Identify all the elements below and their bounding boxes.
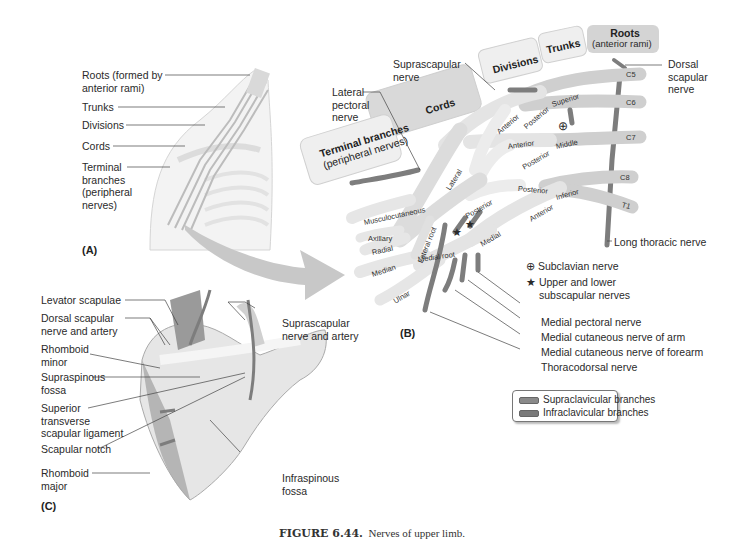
callout-lateral-pectoral-nerve: Lateralpectoralnerve [332, 86, 369, 124]
label-dorsal-scapular: Dorsal scapularnerve and artery [41, 312, 117, 337]
label-infraspinous-fossa: Infraspinousfossa [282, 472, 339, 497]
key-subscapular: ★ Upper and lowersubscapular nerves [526, 276, 630, 301]
label-cords: Cords [82, 140, 110, 153]
label-roots: Roots (formed byanterior rami) [82, 69, 163, 94]
callout-medial-cutaneous-arm: Medial cutaneous nerve of arm [541, 331, 685, 344]
branch-legend: Supraclavicular branches Infraclavicular… [512, 390, 618, 422]
supraclavicular-swatch [519, 397, 539, 404]
subscapular-star-icon-2: ★ [465, 218, 475, 231]
legend-supraclavicular: Supraclavicular branches [519, 394, 655, 405]
figure-caption: FIGURE 6.44. Nerves of upper limb. [0, 527, 744, 540]
root-c7: C7 [626, 133, 636, 142]
header-roots-sub: (anterior rami) [592, 38, 652, 51]
panel-a-letter: (A) [82, 244, 97, 256]
callout-thoracodorsal: Thoracodorsal nerve [541, 361, 637, 374]
panel-a-torso [150, 68, 272, 250]
label-rhomboid-minor: Rhomboidminor [41, 343, 89, 368]
terminal-axillary: Axillary [368, 234, 392, 243]
panel-b-letter: (B) [400, 327, 415, 339]
callout-dorsal-scapular-nerve: Dorsalscapularnerve [668, 58, 708, 96]
panel-c-letter: (C) [41, 500, 56, 512]
label-divisions: Divisions [82, 119, 124, 132]
callout-long-thoracic-nerve: Long thoracic nerve [614, 236, 706, 249]
label-rhomboid-major: Rhomboidmajor [41, 467, 89, 492]
root-c5: C5 [626, 70, 636, 79]
root-c6: C6 [626, 98, 636, 107]
label-scapular-notch: Scapular notch [41, 443, 111, 456]
callout-medial-cutaneous-forearm: Medial cutaneous nerve of forearm [541, 346, 703, 359]
label-trunks: Trunks [82, 101, 114, 114]
label-suprascapular-nerve-artery: Suprascapularnerve and artery [282, 317, 358, 342]
label-terminal-branches: Terminalbranches(peripheralnerves) [82, 161, 132, 211]
callout-medial-pectoral: Medial pectoral nerve [541, 316, 641, 329]
root-c8: C8 [620, 173, 630, 182]
legend-infraclavicular: Infraclavicular branches [519, 407, 649, 418]
callout-suprascapular-nerve: Suprascapularnerve [393, 58, 461, 83]
key-subclavian: ⊕ Subclavian nerve [526, 260, 618, 273]
star-icon: ★ [526, 276, 536, 288]
label-levator-scapulae: Levator scapulae [41, 294, 121, 307]
subclavian-marker-icon: ⊕ [558, 120, 568, 133]
label-supraspinous-fossa: Supraspinousfossa [41, 371, 105, 396]
infraclavicular-swatch [519, 410, 539, 417]
subscapular-star-icon: ★ [452, 226, 462, 239]
label-superior-transverse-ligament: Superiortransversescapular ligament [41, 402, 123, 440]
plus-circle-icon: ⊕ [526, 260, 535, 272]
